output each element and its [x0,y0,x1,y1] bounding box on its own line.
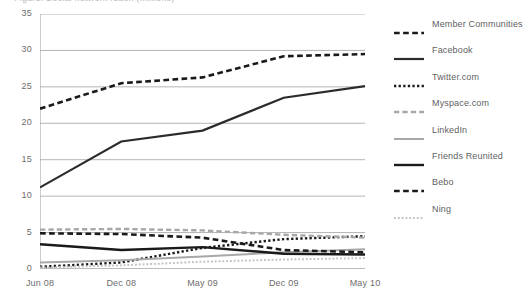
legend-label: Myspace.com [432,98,489,108]
legend-swatch-icon [394,102,424,110]
line-chart-svg [40,14,371,269]
y-axis-label-0: 0 [6,263,32,273]
x-axis-label-1: Dec 08 [91,278,151,288]
y-axis-label-25: 25 [6,81,32,91]
chart-title: Figure: Social network reach (millions) [14,0,174,3]
legend-label: Friends Reunited [432,151,503,161]
legend-swatch-icon [394,129,424,137]
y-axis-label-20: 20 [6,117,32,127]
legend-item-linkedin[interactable]: LinkedIn [394,124,516,150]
x-axis-label-0: Jun 08 [10,278,70,288]
y-axis-label-15: 15 [6,154,32,164]
legend-swatch-icon [394,23,424,31]
legend-label: Ning [432,204,451,214]
y-axis-label-10: 10 [6,190,32,200]
x-axis-label-4: May 10 [335,278,395,288]
legend-item-twitter-com[interactable]: Twitter.com [394,71,516,97]
legend-label: Twitter.com [432,72,479,82]
legend-label: LinkedIn [432,125,467,135]
legend-item-friends-reunited[interactable]: Friends Reunited [394,150,516,176]
legend-swatch-icon [394,76,424,84]
legend-item-bebo[interactable]: Bebo [394,176,516,202]
legend-swatch-icon [394,155,424,163]
y-axis-label-5: 5 [6,227,32,237]
legend-label: Bebo [432,177,454,187]
legend-swatch-icon [394,208,424,216]
legend-item-facebook[interactable]: Facebook [394,44,516,70]
series-line-facebook [40,86,365,187]
legend-item-member-communities[interactable]: Member Communities [394,18,516,44]
y-axis-label-30: 30 [6,44,32,54]
data-series-layer [40,54,365,267]
series-line-ning [40,258,365,267]
legend-swatch-icon [394,181,424,189]
series-line-bebo [40,233,365,252]
chart-legend: Member CommunitiesFacebookTwitter.comMys… [394,18,516,229]
y-axis-label-35: 35 [6,8,32,18]
legend-item-myspace-com[interactable]: Myspace.com [394,97,516,123]
legend-swatch-icon [394,49,424,57]
x-axis-label-2: May 09 [173,278,233,288]
series-line-member-communities [40,54,365,109]
legend-label: Member Communities [432,19,523,29]
legend-label: Facebook [432,45,473,55]
plot-area [40,14,371,269]
legend-item-ning[interactable]: Ning [394,203,516,229]
series-line-friends-reunited [40,244,365,254]
x-axis-label-3: Dec 09 [254,278,314,288]
